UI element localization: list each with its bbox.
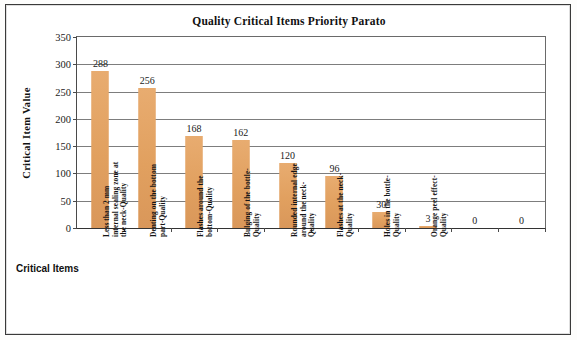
y-tick-label: 0: [66, 223, 71, 234]
y-tick-label: 150: [55, 141, 71, 152]
x-category-label: Denting on the bottom part-Quality: [150, 137, 167, 237]
x-category-label: Flashes at the neck- Quality: [337, 137, 354, 237]
y-tick-mark: [73, 146, 77, 147]
x-category-label: Orange peel effect- Quality: [431, 137, 448, 237]
y-tick-label: 200: [55, 113, 71, 124]
y-tick-label: 50: [61, 195, 72, 206]
x-tick-mark: [171, 228, 172, 232]
bar-value-label: 168: [187, 123, 202, 134]
y-tick-label: 100: [55, 168, 71, 179]
x-category-label: Rounded internal edge around the neck- Q…: [291, 137, 317, 237]
bar-value-label: 0: [472, 215, 477, 226]
chart-frame: Quality Critical Items Priority Parato C…: [5, 4, 571, 335]
x-category-label: Flashes around the bottom-Quality: [197, 137, 214, 237]
bar-value-label: 0: [519, 215, 524, 226]
x-tick-mark: [451, 228, 452, 232]
bar-value-label: 162: [233, 127, 248, 138]
y-tick-label: 250: [55, 86, 71, 97]
x-tick-mark: [217, 228, 218, 232]
x-category-label: Holes in the bottle- Quality: [384, 137, 401, 237]
chart-page: Quality Critical Items Priority Parato C…: [0, 0, 577, 340]
y-tick-mark: [73, 201, 77, 202]
gridline: [77, 64, 545, 65]
y-tick-mark: [73, 119, 77, 120]
y-axis-title: Critical Item Value: [21, 87, 32, 178]
y-tick-mark: [73, 173, 77, 174]
x-tick-mark: [405, 228, 406, 232]
x-tick-mark: [545, 228, 546, 232]
bar-value-label: 288: [93, 58, 108, 69]
y-tick-label: 350: [55, 32, 71, 43]
y-tick-mark: [73, 37, 77, 38]
x-category-label: Bulging of the bottle- Quality: [244, 137, 261, 237]
y-tick-mark: [73, 92, 77, 93]
x-tick-mark: [498, 228, 499, 232]
x-category-label: Less than 2 mm internal sealing zone at …: [103, 137, 129, 237]
x-tick-mark: [264, 228, 265, 232]
x-axis-title: Critical Items: [16, 263, 79, 274]
y-tick-mark: [73, 228, 77, 229]
y-tick-mark: [73, 64, 77, 65]
bar-value-label: 256: [140, 75, 155, 86]
x-tick-mark: [358, 228, 359, 232]
chart-title: Quality Critical Items Priority Parato: [6, 15, 572, 27]
y-tick-label: 300: [55, 59, 71, 70]
